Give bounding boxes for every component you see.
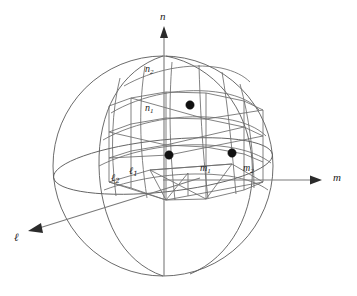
grid-label-l2-sub: 2 (115, 177, 119, 185)
floor-rail-back (150, 164, 232, 170)
figure-root: n m ℓ n2 n1 ℓ1 ℓ2 m1 m2 (0, 0, 357, 296)
grid-label-l1: ℓ1 (129, 166, 138, 178)
grid-label-n2: n2 (145, 64, 154, 76)
grid-meridian-c (170, 62, 175, 200)
axis-label-l: ℓ (14, 232, 19, 243)
grid-label-l2: ℓ2 (111, 173, 120, 185)
axis-arrow-n (160, 26, 168, 38)
chord-diag-mid (109, 136, 263, 158)
grid-meridian-b (141, 66, 147, 198)
grid-label-m2: m2 (243, 163, 254, 175)
axis-label-m: m (333, 172, 341, 183)
sphere-outline (53, 56, 273, 276)
axis-arrow-m (310, 176, 322, 185)
grid-label-n1-sub: 1 (150, 107, 154, 115)
grid-label-n2-sub: 2 (150, 68, 154, 76)
chord-diag-upper (109, 127, 244, 145)
axis-arrow-l (28, 223, 43, 233)
marker-point-center (165, 151, 173, 159)
floor-strut-a (166, 173, 188, 200)
grid-meridian-d (199, 65, 208, 198)
sphere-diagram (0, 0, 357, 296)
equator-ellipse (51, 129, 275, 204)
marker-point-right (228, 149, 236, 157)
grid-label-m2-sub: 2 (250, 167, 254, 175)
marker-point-upper (186, 101, 194, 109)
grid-label-m1-sub: 1 (207, 167, 211, 175)
grid-label-l1-sub: 1 (133, 170, 137, 178)
grid-arc-n1 (111, 91, 259, 113)
box-edge-bottom (109, 182, 263, 200)
axis-label-n: n (160, 11, 166, 22)
grid-label-m1: m1 (200, 163, 211, 175)
grid-label-n1: n1 (145, 103, 154, 115)
